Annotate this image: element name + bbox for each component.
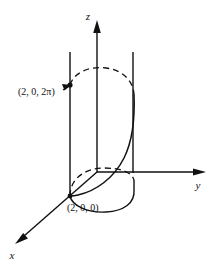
helix-cylinder-diagram: z y x (2, 0, 2π) (2, 0, 0) (0, 0, 216, 267)
axes-group (15, 20, 206, 244)
top-circle-back-arc (70, 68, 134, 94)
x-axis-label: x (9, 249, 15, 261)
helix-front-strand (70, 94, 134, 196)
y-axis-arrowhead (193, 168, 206, 175)
y-axis-label: y (195, 179, 201, 191)
z-axis-arrowhead (93, 20, 101, 33)
helix-curve (70, 94, 134, 196)
bottom-point-label: (2, 0, 0) (67, 202, 99, 214)
z-axis (93, 20, 101, 172)
bottom-point-marker (68, 194, 73, 199)
z-axis-label: z (85, 10, 91, 22)
figure-container: z y x (2, 0, 2π) (2, 0, 0) (0, 0, 216, 267)
top-point-label: (2, 0, 2π) (18, 86, 55, 98)
top-circle (70, 68, 134, 94)
